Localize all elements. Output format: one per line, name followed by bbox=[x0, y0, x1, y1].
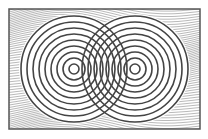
moire-figure bbox=[0, 0, 208, 139]
